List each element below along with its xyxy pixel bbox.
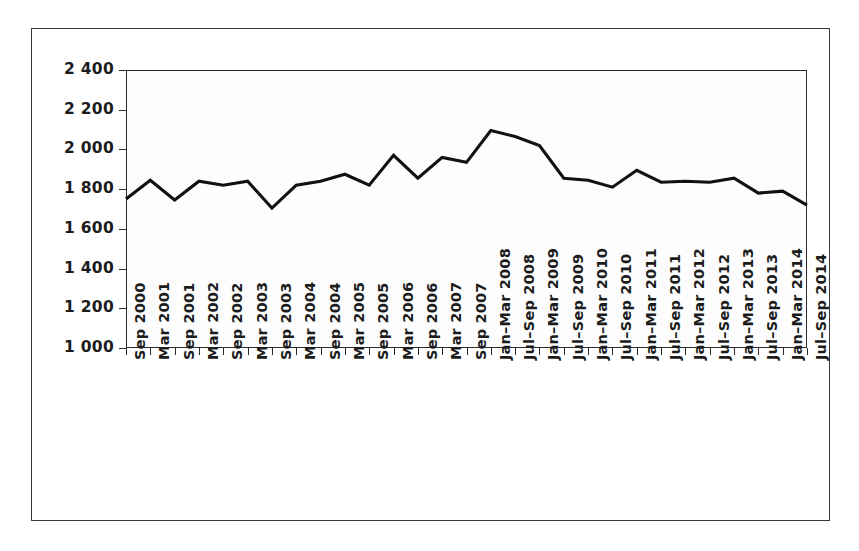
x-tick-mark [248,348,249,355]
y-axis-label: 2 000 [48,139,114,157]
y-axis-label: 2 400 [48,60,114,78]
x-tick-mark [345,348,346,355]
x-tick-mark [685,348,686,355]
x-tick-mark [588,348,589,355]
x-tick-mark [637,348,638,355]
y-axis-label: 1 400 [48,259,114,277]
chart-page: 2 4002 2002 0001 8001 6001 4001 2001 000… [0,0,859,551]
y-tick-mark [119,308,126,309]
x-tick-mark [661,348,662,355]
x-tick-mark [418,348,419,355]
x-tick-mark [296,348,297,355]
y-tick-mark [119,110,126,111]
line-chart: 2 4002 2002 0001 8001 6001 4001 2001 000… [0,0,859,551]
series-polyline [126,131,807,208]
x-tick-mark [175,348,176,355]
x-tick-mark [710,348,711,355]
x-tick-mark [491,348,492,355]
y-axis-label: 1 000 [48,338,114,356]
x-tick-mark [321,348,322,355]
x-tick-mark [734,348,735,355]
x-tick-mark [126,348,127,355]
y-axis-label: 1 800 [48,179,114,197]
y-axis-label: 1 600 [48,219,114,237]
y-axis-label: 1 200 [48,298,114,316]
x-tick-mark [515,348,516,355]
x-axis-label: Jul–Sep 2014 [813,254,829,360]
x-tick-mark [223,348,224,355]
x-tick-mark [807,348,808,355]
y-tick-mark [119,229,126,230]
y-tick-mark [119,189,126,190]
x-tick-mark [758,348,759,355]
x-tick-mark [369,348,370,355]
x-tick-mark [564,348,565,355]
x-tick-mark [442,348,443,355]
x-tick-mark [199,348,200,355]
y-tick-mark [119,149,126,150]
y-axis-label: 2 200 [48,100,114,118]
y-tick-mark [119,70,126,71]
y-tick-mark [119,348,126,349]
x-tick-mark [612,348,613,355]
x-tick-mark [783,348,784,355]
x-tick-mark [394,348,395,355]
x-tick-mark [150,348,151,355]
series-line [126,70,807,348]
x-tick-mark [467,348,468,355]
y-tick-mark [119,269,126,270]
x-tick-mark [539,348,540,355]
x-tick-mark [272,348,273,355]
